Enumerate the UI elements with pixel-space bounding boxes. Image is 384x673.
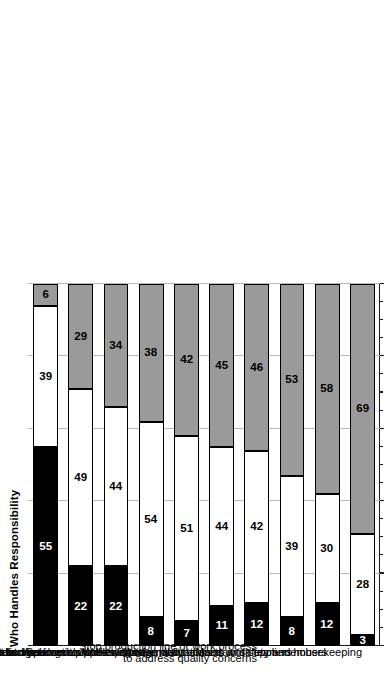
bar-segment-team: 38 [139,284,164,422]
bar-value-label: 6 [42,289,48,301]
bar-value-label: 55 [39,541,52,553]
bar-segment-team: 45 [209,284,234,447]
bar-segment-shared: 54 [139,422,164,617]
bar-stack: 224434 [104,284,129,646]
bar-segment-shared: 28 [350,534,375,635]
axis-tick-minor [380,591,383,592]
axis-tick-minor [380,301,383,302]
axis-tick-minor [380,373,383,374]
axis-tick-minor [380,319,383,320]
category-label: Maintain safety and housekeeping [132,646,362,658]
axis-tick-major [380,645,384,646]
bar-segment-team: 6 [33,284,58,306]
bar-segment-team: 69 [350,284,375,534]
bar-value-label: 44 [110,481,123,493]
axis-tick-major [380,283,384,284]
bar-value-label: 44 [215,521,228,533]
axis-tick-minor [380,536,383,537]
bar-value-label: 54 [145,514,158,526]
bar-stack: 85438 [139,284,164,646]
bar-value-label: 53 [286,374,299,386]
bar-segment-supervisor: 3 [350,635,375,646]
bar-value-label: 69 [356,403,369,415]
bar-segment-shared: 42 [244,451,269,603]
bar-segment-team: 34 [104,284,129,407]
bar-segment-shared: 51 [174,436,199,621]
bar-segment-supervisor: 8 [280,617,305,646]
bar-stack: 75142 [174,284,199,646]
bar-stack: 55396 [33,284,58,646]
axis-tick-minor [380,609,383,610]
bar-segment-team: 58 [315,284,340,494]
axis-tick-minor [380,446,383,447]
bar-value-label: 42 [250,521,263,533]
bar-value-label: 34 [110,340,123,352]
bar-stack: 124246 [244,284,269,646]
bar-value-label: 51 [180,523,193,535]
bar-segment-shared: 44 [104,407,129,566]
axis-tick-minor [380,518,383,519]
bar-value-label: 8 [289,626,295,638]
bar-value-label: 28 [356,579,369,591]
bar-value-label: 45 [215,360,228,372]
bar-stack: 32869 [350,284,375,646]
bar-value-label: 39 [286,541,299,553]
bar-value-label: 12 [250,619,263,631]
bar-segment-supervisor: 12 [315,603,340,646]
bar-stack: 224929 [68,284,93,646]
category-axis-title: Production Tasks [0,646,18,658]
chart-canvas: Who Handles Responsibility 020406080100 … [0,0,384,673]
bar-segment-shared: 30 [315,494,340,603]
bar-segment-supervisor: 55 [33,447,58,646]
bar-value-label: 38 [145,347,158,359]
bar-value-label: 3 [359,635,365,647]
axis-tick-minor [380,337,383,338]
bar-value-label: 11 [215,620,227,632]
bar-segment-shared: 39 [280,476,305,617]
axis-tick-minor [380,482,383,483]
bar-value-label: 42 [180,354,193,366]
axis-tick-major [380,355,384,356]
bar-stack: 114445 [209,284,234,646]
bar-value-label: 8 [148,626,154,638]
axis-tick-minor [380,554,383,555]
bar-segment-shared: 49 [68,389,93,566]
axis-tick-major [380,500,384,501]
bar-value-label: 12 [321,619,334,631]
bar-value-label: 30 [321,543,334,555]
axis-tick-major [380,428,384,429]
bar-segment-supervisor: 22 [104,566,129,646]
bar-value-label: 39 [39,371,52,383]
bar-segment-team: 42 [174,284,199,436]
bar-value-label: 22 [110,600,123,612]
axis-tick-minor [380,410,383,411]
bar-stack: 123058 [315,284,340,646]
axis-tick-major [380,572,384,573]
bar-segment-supervisor: 22 [68,566,93,646]
bar-value-label: 29 [74,331,87,343]
bar-value-label: 58 [321,383,334,395]
chart-title: Who Handles Responsibility [8,490,20,647]
bar-segment-team: 53 [280,284,305,476]
bar-value-label: 49 [74,472,87,484]
axis-tick-minor [380,391,383,392]
bar-value-label: 7 [183,628,189,640]
bar-value-label: 46 [250,362,263,374]
bar-segment-team: 46 [244,284,269,451]
axis-tick-minor [380,464,383,465]
bar-segment-shared: 39 [33,306,58,447]
axis-tick-minor [380,627,383,628]
plot-area: 020406080100 553962249292244348543875142… [28,284,380,646]
bar-value-label: 22 [74,600,87,612]
bar-stack: 83953 [280,284,305,646]
bar-segment-shared: 44 [209,447,234,606]
bar-segment-team: 29 [68,284,93,389]
